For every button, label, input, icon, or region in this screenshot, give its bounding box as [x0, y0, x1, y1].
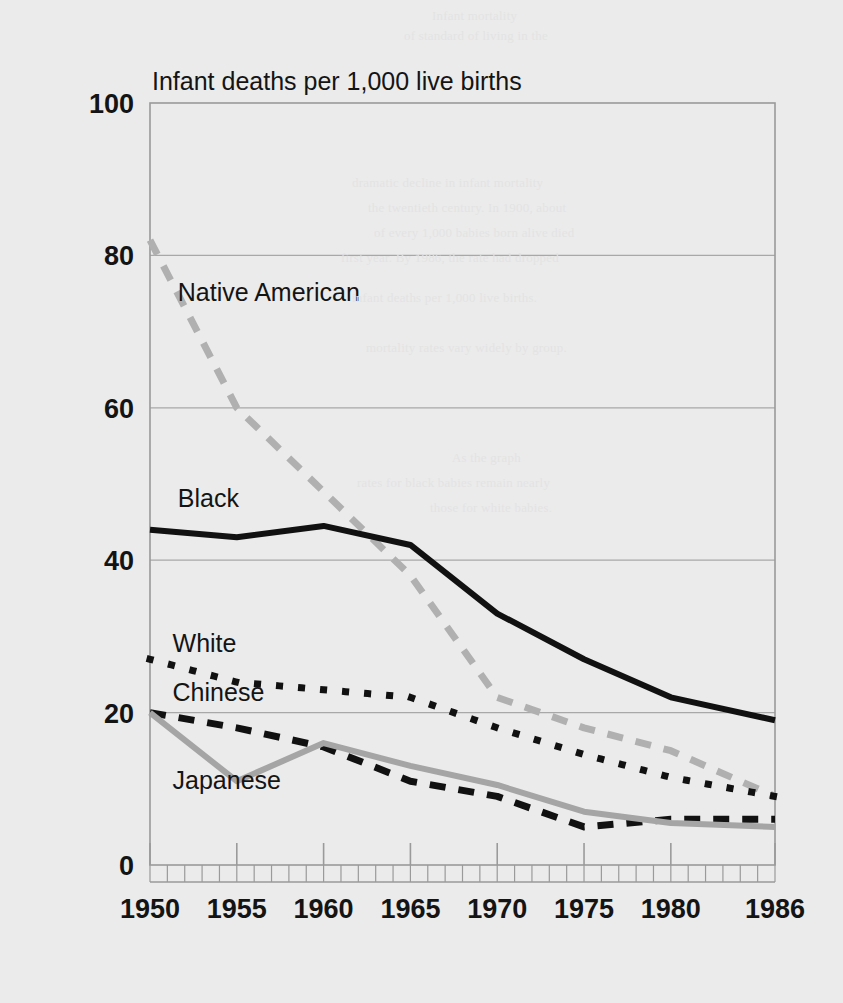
ghost-text-line: the twentieth century. In 1900, about	[368, 200, 566, 216]
ghost-text-line: of standard of living in the	[404, 28, 548, 44]
ghost-text-line: As the graph	[452, 450, 521, 466]
x-tick-label-1960: 1960	[294, 894, 354, 924]
ghost-text-line: those for white babies.	[430, 500, 552, 516]
x-tick-label-1975: 1975	[554, 894, 614, 924]
y-tick-label-0: 0	[119, 851, 134, 881]
y-tick-label-60: 60	[104, 394, 134, 424]
x-tick-label-1965: 1965	[380, 894, 440, 924]
x-tick-label-1970: 1970	[467, 894, 527, 924]
series-label-japanese: Japanese	[173, 766, 281, 794]
ghost-text-line: of every 1,000 babies born alive died	[374, 225, 575, 241]
y-tick-label-40: 40	[104, 546, 134, 576]
ghost-text-line: Infant mortality	[432, 8, 517, 24]
y-tick-label-20: 20	[104, 699, 134, 729]
ghost-text-line: infant deaths per 1,000 live births.	[352, 290, 537, 306]
ghost-text-line: dramatic decline in infant mortality	[352, 175, 543, 191]
y-tick-label-100: 100	[89, 89, 134, 119]
x-tick-label-1986: 1986	[745, 894, 805, 924]
series-label-native-american: Native American	[178, 278, 360, 306]
ghost-text-line: rates for black babies remain nearly	[357, 475, 550, 491]
x-tick-label-1955: 1955	[207, 894, 267, 924]
ghost-text-line: mortality rates vary widely by group.	[366, 340, 567, 356]
line-chart: 020406080100 195019551960196519701975198…	[0, 0, 843, 1003]
y-tick-label-80: 80	[104, 241, 134, 271]
x-tick-label-1950: 1950	[120, 894, 180, 924]
infant-mortality-figure: Infant mortalityof standard of living in…	[0, 0, 843, 1003]
ghost-text-line: first year. By 1986, the rate had droppe…	[341, 250, 559, 266]
x-tick-label-1980: 1980	[641, 894, 701, 924]
series-label-black: Black	[178, 484, 240, 512]
series-label-white: White	[173, 629, 237, 657]
series-label-chinese: Chinese	[173, 678, 265, 706]
chart-title: Infant deaths per 1,000 live births	[152, 67, 522, 95]
